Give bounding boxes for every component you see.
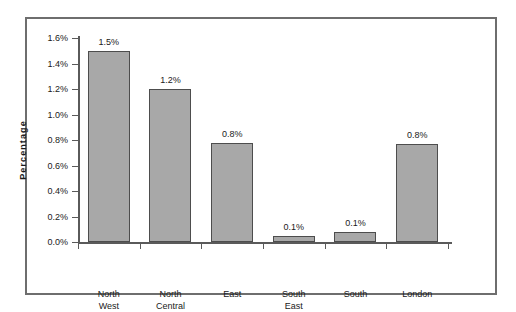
y-axis-tick-label: 1.0% [47,110,68,120]
x-axis-tick-mark [263,242,264,249]
x-axis-category-label: NorthCentral [140,288,202,312]
bar-value-label: 0.8% [222,129,243,139]
bar-group: 1.5% [78,38,140,242]
chart-figure: Percentage 0.0%0.2%0.4%0.6%0.8%1.0%1.2%1… [0,0,516,312]
bar[interactable] [149,89,191,242]
x-axis-category-label-line: East [263,300,325,312]
y-axis-tick-label: 1.4% [47,59,68,69]
x-axis-category-label-line: London [386,288,448,300]
bar-value-label: 0.1% [345,218,366,228]
y-axis-tick-label: 0.4% [47,186,68,196]
x-axis-tick-mark [140,242,141,249]
bar-value-label: 1.5% [99,37,120,47]
y-axis-label: Percentage [18,120,28,180]
bar-group: 1.2% [140,38,202,242]
bar-group: 0.8% [201,38,263,242]
bar-value-label: 0.1% [284,222,305,232]
y-axis-tick-label: 1.2% [47,84,68,94]
x-axis-category-label-line: Central [140,300,202,312]
y-axis-tick-label: 0.8% [47,135,68,145]
bar-group: 0.1% [263,38,325,242]
bar-group: 0.1% [325,38,387,242]
bar[interactable] [273,236,315,242]
x-axis-category-label-line: West [78,300,140,312]
x-axis-category-label: East [201,288,263,300]
y-axis-tick-label: 0.6% [47,161,68,171]
bar[interactable] [334,232,376,242]
x-axis-category-label-line: South [325,288,387,300]
x-axis-category-label: NorthWest [78,288,140,312]
x-axis-tick-mark [78,242,79,249]
x-axis-category-label-line: East [201,288,263,300]
plot-area: 0.0%0.2%0.4%0.6%0.8%1.0%1.2%1.4%1.6% 1.5… [78,38,448,242]
x-axis-tick-mark [201,242,202,249]
x-axis-category-label: SouthEast [263,288,325,312]
bar[interactable] [88,51,130,242]
x-axis-category-label: South [325,288,387,300]
bar[interactable] [396,144,438,242]
x-axis-category-label: London [386,288,448,300]
bar-group: 0.8% [386,38,448,242]
y-axis-tick-label: 1.6% [47,33,68,43]
x-axis-tick-mark [325,242,326,249]
bar-value-label: 0.8% [407,130,428,140]
y-axis-tick-label: 0.0% [47,237,68,247]
bar[interactable] [211,143,253,242]
x-axis-category-label-line: North [140,288,202,300]
x-axis-category-label-line: South [263,288,325,300]
y-axis-tick-label: 0.2% [47,212,68,222]
x-axis-line [78,242,452,244]
x-axis-tick-mark [386,242,387,249]
x-axis-tick-mark [448,242,449,249]
x-axis-category-label-line: North [78,288,140,300]
bar-value-label: 1.2% [160,75,181,85]
y-axis-label-container: Percentage [12,95,34,205]
